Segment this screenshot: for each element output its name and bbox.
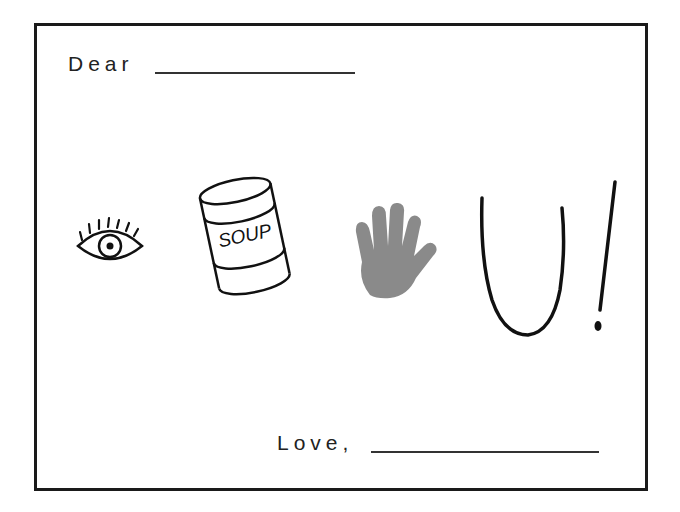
letter-u-icon xyxy=(470,190,580,340)
greeting-label: Dear xyxy=(68,52,134,76)
recipient-blank-line[interactable] xyxy=(155,72,355,74)
exclamation-icon xyxy=(588,178,618,338)
closing-label: Love, xyxy=(277,431,353,455)
eye-icon xyxy=(70,210,150,270)
hand-icon xyxy=(350,200,440,300)
soup-can-icon: SOUP xyxy=(190,170,300,305)
sender-blank-line[interactable] xyxy=(371,451,599,453)
